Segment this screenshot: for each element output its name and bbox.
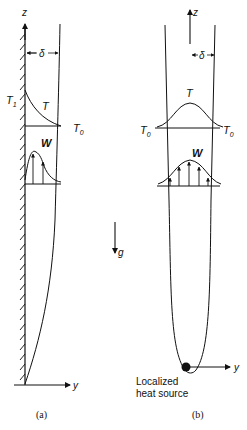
- svg-text:T0: T0: [73, 122, 84, 136]
- svg-text:δ: δ: [199, 50, 205, 61]
- panel-a: z δ T1 T T0 W y (a): [6, 7, 84, 421]
- svg-text:g: g: [118, 247, 124, 258]
- temperature-profile-b: T T0 T0: [140, 87, 234, 138]
- heat-source-label-2: heat source: [136, 388, 189, 399]
- heat-source-dot: [182, 363, 191, 372]
- heated-wall: [20, 26, 25, 385]
- svg-text:T: T: [186, 87, 194, 99]
- caption-b: (b): [192, 409, 204, 421]
- temperature-profile-a: T1 T T0: [6, 90, 84, 136]
- svg-text:W: W: [41, 137, 53, 149]
- svg-text:T0: T0: [223, 124, 234, 138]
- svg-text:δ: δ: [39, 48, 45, 59]
- svg-text:T0: T0: [140, 124, 151, 138]
- caption-a: (a): [36, 409, 47, 421]
- y-axis-label-a: y: [72, 380, 79, 391]
- svg-text:T: T: [42, 100, 50, 112]
- svg-text:W: W: [192, 147, 204, 159]
- svg-text:T1: T1: [6, 94, 17, 108]
- panel-b: z δ T T0 T0 W: [136, 7, 240, 421]
- boundary-layer-edge-a: [25, 24, 60, 384]
- boundary-layer-figure: z δ T1 T T0 W y (a): [0, 0, 247, 430]
- z-axis-label-b: z: [192, 7, 198, 18]
- delta-dimension-a: δ: [27, 48, 58, 59]
- gravity-indicator: g: [115, 222, 124, 258]
- z-axis-label-a: z: [21, 7, 27, 18]
- heat-source-label: Localized: [136, 376, 178, 387]
- y-axis-label-b: y: [233, 362, 240, 373]
- plume-boundary-b: [165, 25, 215, 373]
- delta-dimension-b: δ: [192, 50, 214, 61]
